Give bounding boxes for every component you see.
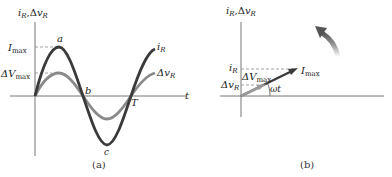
vmax-label: ΔVmax bbox=[0, 68, 30, 81]
panel-a-caption: (a) bbox=[92, 159, 106, 170]
panel-a-y-axis-label: iR,ΔvR bbox=[18, 7, 49, 20]
panel-b-y-axis-label: iR,ΔvR bbox=[226, 5, 257, 18]
vmax-phasor bbox=[241, 87, 260, 96]
imax-phasor-arrowhead-icon bbox=[288, 68, 298, 75]
point-b-label: b bbox=[85, 85, 91, 96]
panel-b-caption: (b) bbox=[300, 159, 314, 170]
vmax-phasor-label: ΔVmax bbox=[241, 71, 271, 84]
point-a-label: a bbox=[57, 33, 63, 44]
point-c-label: c bbox=[104, 147, 109, 157]
imax-phasor-label: Imax bbox=[300, 65, 320, 78]
counterclockwise-rotation-arrow-icon bbox=[315, 26, 338, 57]
imax-label: Imax bbox=[7, 42, 27, 55]
panel-a-waveforms: iR,ΔvR Imax ΔVmax a b c T t iR ΔvR (a) bbox=[0, 7, 190, 170]
panel-b-phasor: iR,ΔvR iR ΔvR ΔVmax Imax ωt (b) bbox=[220, 5, 384, 170]
resistor-ac-diagram: iR,ΔvR Imax ΔVmax a b c T t iR ΔvR (a) bbox=[0, 0, 392, 177]
iR-value-label: iR bbox=[229, 62, 238, 75]
voltage-curve-label: ΔvR bbox=[156, 67, 176, 80]
current-curve-label: iR bbox=[157, 41, 166, 54]
period-label: T bbox=[131, 97, 139, 108]
time-axis-label: t bbox=[185, 90, 190, 101]
vR-value-label: ΔvR bbox=[220, 79, 240, 92]
omega-t-label: ωt bbox=[270, 84, 281, 94]
